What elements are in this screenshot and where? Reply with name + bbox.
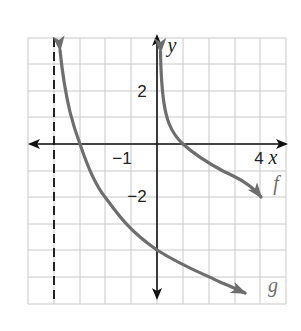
curve-g-label: g [268,274,278,297]
x-axis-label: x [268,146,278,168]
tick-label-y-neg2: −2 [127,187,146,206]
tick-label-x-neg1: −1 [112,149,131,168]
curve-f [161,52,262,197]
tick-label-x-4: 4 [254,149,263,168]
curve-f-label: f [273,172,281,195]
y-axis-label: y [166,34,177,57]
graph: 2 −2 −1 4 x y f g [0,0,301,331]
tick-label-y-2: 2 [137,82,146,101]
